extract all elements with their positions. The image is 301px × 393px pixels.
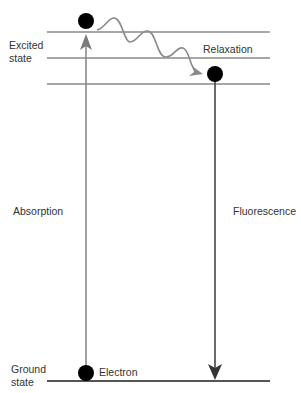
absorption-label: Absorption xyxy=(13,205,63,218)
excited-electron-icon xyxy=(78,13,94,29)
relaxation-wavy-path xyxy=(97,18,197,72)
jablonski-diagram: Excited state Relaxation Absorption Fluo… xyxy=(0,0,301,393)
electron-label: Electron xyxy=(99,366,138,379)
relaxed-electron-icon xyxy=(207,66,223,82)
relaxation-label: Relaxation xyxy=(203,43,253,56)
fluorescence-label: Fluorescence xyxy=(233,205,296,218)
relaxation-arrowhead-icon xyxy=(189,66,203,76)
ground-state-label: Ground state xyxy=(11,363,57,389)
ground-electron-icon xyxy=(78,365,94,381)
excited-state-label: Excited state xyxy=(9,39,69,65)
